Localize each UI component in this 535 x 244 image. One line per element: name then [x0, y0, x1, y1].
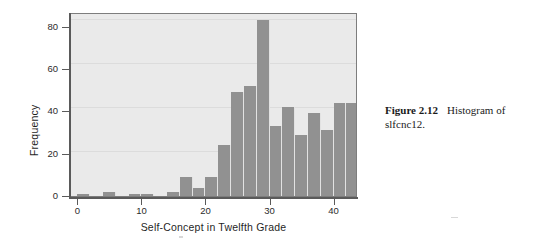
- histogram-bar: [129, 194, 142, 196]
- histogram-bar: [244, 86, 257, 196]
- x-axis-title: Self-Concept in Twelfth Grade: [70, 221, 357, 233]
- x-tick-label: 10: [126, 206, 156, 216]
- histogram-bar: [282, 107, 295, 196]
- y-tick-label: 60: [30, 64, 58, 73]
- y-tick-label: 0: [30, 191, 58, 200]
- figure-caption: Figure 2.12Histogram of slfcnc12.: [385, 103, 530, 131]
- histogram-bar: [231, 92, 244, 196]
- histogram-bar: [193, 188, 206, 196]
- x-tick-label: 0: [62, 206, 92, 216]
- histogram-bar: [346, 103, 357, 196]
- x-tick-label: 30: [255, 206, 285, 216]
- y-tick-label: 40: [30, 106, 58, 115]
- y-tick: [62, 111, 69, 112]
- histogram-bar: [295, 135, 308, 196]
- histogram-bar: [308, 113, 321, 196]
- x-tick-label: 20: [190, 206, 220, 216]
- histogram-bar: [334, 103, 347, 196]
- x-axis-line: [69, 197, 358, 199]
- histogram-bar: [141, 194, 154, 196]
- x-tick-label: 40: [319, 206, 349, 216]
- y-tick: [62, 154, 69, 155]
- scan-speck: [179, 236, 183, 238]
- histogram-bar: [218, 145, 231, 196]
- histogram-bar: [257, 20, 270, 196]
- bar-series: [71, 14, 356, 196]
- histogram-bar: [167, 192, 180, 196]
- y-axis-title-wrap: Frequency: [16, 60, 30, 156]
- y-axis-line: [69, 13, 71, 198]
- plot-area: [70, 13, 357, 197]
- histogram-chart: Frequency 020406080 010203040 Self-Conce…: [0, 0, 370, 244]
- histogram-bar: [103, 192, 116, 196]
- y-tick-label: 80: [30, 22, 58, 31]
- figure-caption-label: Figure 2.12: [385, 104, 438, 116]
- histogram-bar: [270, 126, 283, 196]
- histogram-bar: [321, 130, 334, 196]
- histogram-bar: [77, 194, 90, 196]
- y-tick-label: 20: [30, 149, 58, 158]
- figure-container: Frequency 020406080 010203040 Self-Conce…: [0, 0, 535, 244]
- histogram-bar: [205, 177, 218, 196]
- y-tick: [62, 196, 69, 197]
- scan-speck: [451, 217, 458, 218]
- histogram-bar: [180, 177, 193, 196]
- y-tick: [62, 27, 69, 28]
- y-tick: [62, 69, 69, 70]
